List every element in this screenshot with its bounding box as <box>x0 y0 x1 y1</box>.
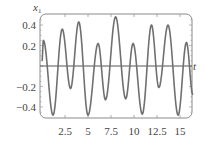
x-tick-labels: 2.557.51012.515 <box>58 125 186 137</box>
x-tick-label: 10 <box>129 125 141 137</box>
x-tick-label: 7.5 <box>104 125 118 137</box>
y-axis-label: x1 <box>32 1 42 15</box>
line-chart: 2.557.51012.515 0.40.2−0.2−0.4 t x1 <box>0 0 211 147</box>
x-tick-label: 15 <box>175 125 187 137</box>
y-tick-label: 0.4 <box>22 19 36 31</box>
y-tick-label: −0.4 <box>16 101 36 113</box>
y-tick-label: 0.2 <box>22 40 36 52</box>
x-tick-label: 12.5 <box>147 125 167 137</box>
y-tick-labels: 0.40.2−0.2−0.4 <box>16 19 36 113</box>
x-tick-label: 2.5 <box>58 125 72 137</box>
y-tick-label: −0.2 <box>16 81 36 93</box>
x-axis-label: t <box>193 60 197 72</box>
x-tick-label: 5 <box>85 125 91 137</box>
